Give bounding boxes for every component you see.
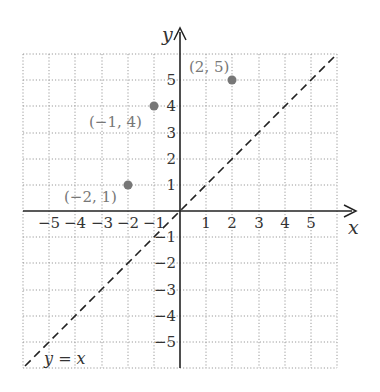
x-tick: 4	[280, 214, 290, 232]
line-y-equals-x	[25, 54, 337, 366]
x-axis-label: x	[348, 216, 359, 238]
point-neg1-4	[150, 102, 159, 111]
x-tick: −4	[64, 214, 86, 232]
y-tick: 5	[166, 71, 176, 89]
y-tick: −2	[154, 254, 176, 272]
y-tick: −1	[154, 228, 176, 246]
coordinate-plane: x y −5 −4 −3 −2 −1 1 2 3 4 5 5 4 3 2 1 −…	[0, 0, 380, 392]
x-tick: −3	[91, 214, 113, 232]
y-tick: 4	[166, 97, 176, 115]
x-tick: 5	[306, 214, 316, 232]
point-neg2-1	[124, 181, 133, 190]
y-axis-label: y	[161, 23, 173, 45]
y-tick: 2	[166, 150, 176, 168]
x-tick: −5	[38, 214, 60, 232]
x-tick: 1	[201, 214, 211, 232]
point-label: (2, 5)	[189, 58, 229, 76]
line-label: y = x	[43, 349, 86, 368]
x-tick: −2	[117, 214, 139, 232]
x-tick: 2	[227, 214, 237, 232]
y-tick: 3	[166, 124, 176, 142]
y-tick: −3	[154, 281, 176, 299]
x-tick: 3	[254, 214, 264, 232]
point-2-5	[228, 76, 237, 85]
point-label: (−1, 4)	[89, 113, 142, 131]
y-tick: 1	[166, 176, 176, 194]
x-tick-labels: −5 −4 −3 −2 −1 1 2 3 4 5	[38, 214, 316, 232]
y-tick: −5	[154, 333, 176, 351]
point-label: (−2, 1)	[64, 188, 117, 206]
y-tick: −4	[154, 307, 176, 325]
